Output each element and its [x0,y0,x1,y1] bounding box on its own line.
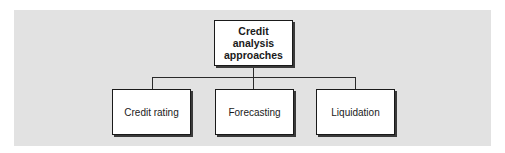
child-node-liquidation: Liquidation [316,89,395,135]
connector-child-1-vertical [152,77,153,89]
root-label-line-3: approaches [224,49,283,61]
root-label-line-2: analysis [224,37,283,49]
child-node-credit-rating: Credit rating [112,89,191,135]
root-label-line-1: Credit [224,25,283,37]
child-node-forecasting: Forecasting [215,89,294,135]
child-node-label: Forecasting [228,107,280,118]
connector-child-2-vertical [253,77,254,89]
child-node-label: Credit rating [124,107,178,118]
root-node-label: Credit analysis approaches [224,25,283,61]
connector-root-vertical [253,66,254,77]
child-node-label: Liquidation [331,107,379,118]
root-node-credit-analysis-approaches: Credit analysis approaches [214,20,293,66]
connector-horizontal-bar [152,77,356,78]
